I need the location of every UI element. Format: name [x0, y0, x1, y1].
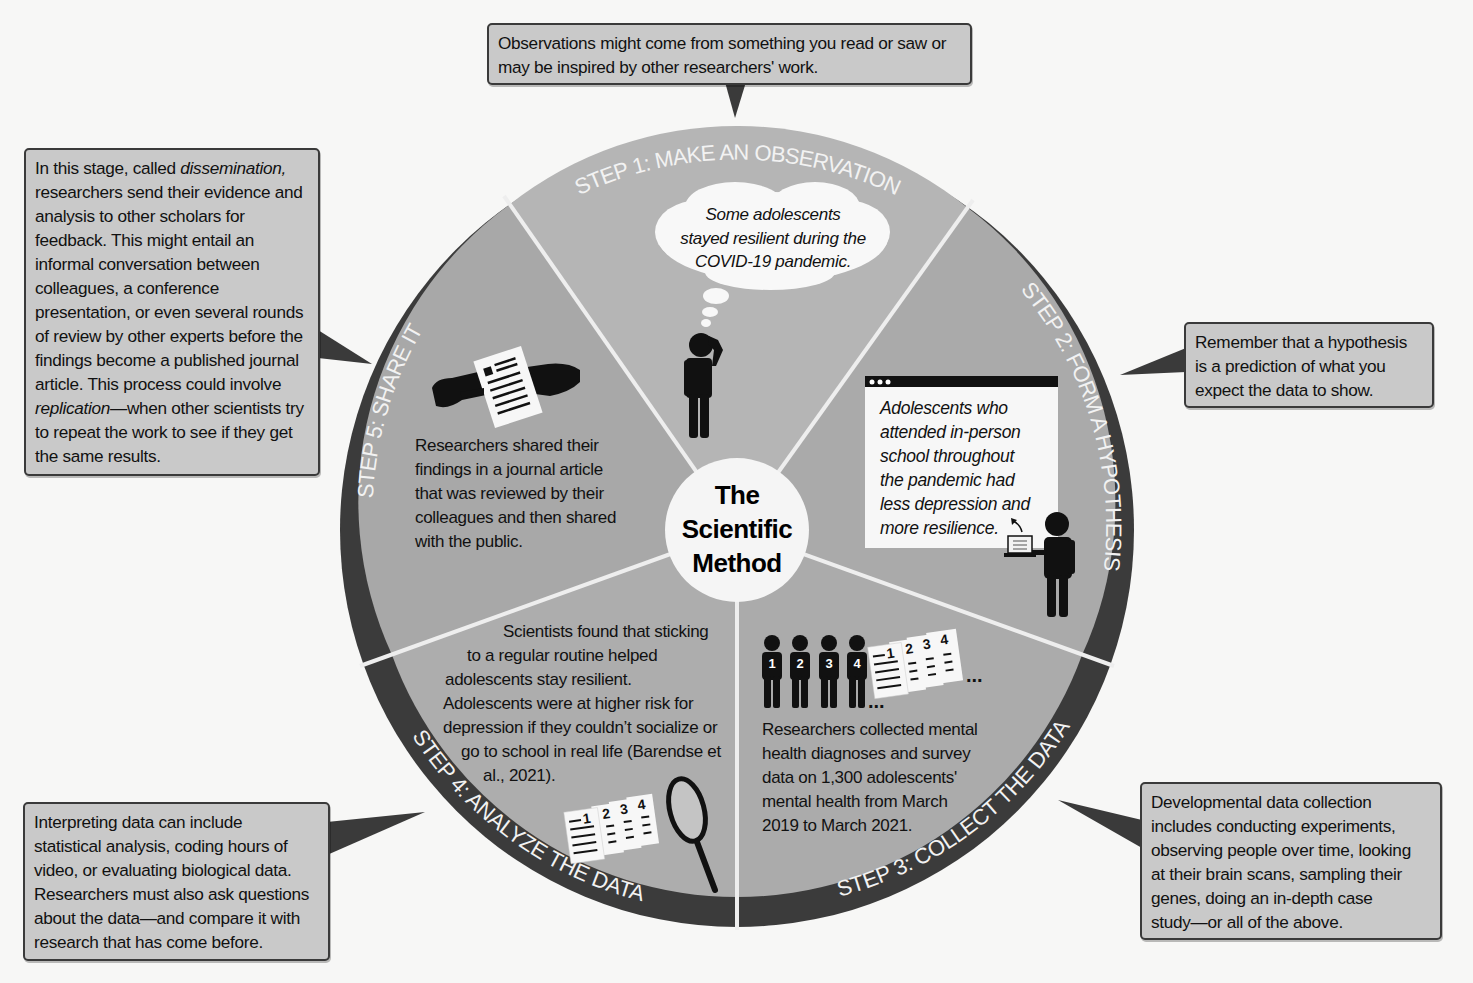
step-4-example-text: Scientists found that sticking to a regu…	[443, 620, 743, 788]
svg-text:2: 2	[796, 656, 803, 671]
ellipsis-papers: ...	[966, 664, 983, 686]
diagram-title: The Scientific Method	[667, 478, 807, 580]
svg-text:3: 3	[825, 656, 832, 671]
callout-step-2: Remember that a hypothesis is a predicti…	[1184, 322, 1434, 408]
svg-text:1: 1	[768, 656, 775, 671]
step-3-example-text: Researchers collected mental health diag…	[762, 718, 1002, 838]
step-1-example-text: Some adolescents stayed resilient during…	[663, 203, 883, 274]
step-2-example-text: Adolescents who attended in-person schoo…	[880, 396, 1055, 540]
callout-step-5: In this stage, called dissemination, res…	[24, 148, 320, 476]
svg-text:4: 4	[853, 656, 861, 671]
callout-step-1: Observations might come from something y…	[487, 23, 972, 85]
callout-step-3: Developmental data collection includes c…	[1140, 782, 1442, 940]
ellipsis-people: ...	[868, 690, 885, 712]
step-5-example-text: Researchers shared their findings in a j…	[415, 434, 645, 554]
callout-step-4: Interpreting data can include statistica…	[23, 802, 330, 961]
